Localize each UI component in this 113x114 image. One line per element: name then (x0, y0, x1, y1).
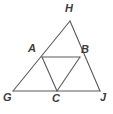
geometry-figure: H A B G C J (0, 0, 113, 114)
vertex-label-B: B (81, 44, 89, 55)
vertex-label-G: G (3, 92, 12, 103)
vertex-label-C: C (52, 93, 60, 104)
segment-midsegment-AC (42, 57, 57, 91)
vertex-label-J: J (100, 92, 106, 103)
segment-midsegment-BC (57, 57, 80, 91)
vertex-label-H: H (65, 3, 73, 14)
segment-side-HJ (70, 21, 100, 91)
vertex-label-A: A (28, 43, 36, 54)
segment-side-GH (13, 21, 70, 91)
